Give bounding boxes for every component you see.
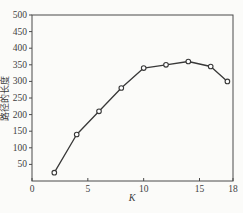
plot-frame: [32, 15, 233, 181]
y-tick-label: 500: [13, 10, 28, 20]
y-tick-label: 50: [18, 159, 28, 169]
data-point-marker: [74, 132, 79, 137]
data-point-marker: [97, 109, 102, 114]
y-tick-label: 350: [13, 60, 28, 70]
x-tick-label: 15: [195, 184, 205, 194]
plot-area: 5010015020025030035040045050005101518: [13, 10, 238, 194]
chart-figure: 5010015020025030035040045050005101518 K …: [0, 0, 243, 213]
x-tick-label: 0: [30, 184, 35, 194]
y-axis-label: 路径的长度: [0, 76, 10, 121]
data-point-marker: [52, 170, 57, 175]
y-tick-label: 150: [13, 126, 28, 136]
x-tick-label: 18: [228, 184, 238, 194]
y-tick-label: 200: [13, 110, 28, 120]
data-point-marker: [164, 63, 169, 68]
x-tick-label: 10: [139, 184, 149, 194]
data-point-marker: [225, 79, 230, 84]
y-tick-label: 300: [13, 76, 28, 86]
y-tick-label: 250: [13, 93, 28, 103]
path-length-line-chart: 5010015020025030035040045050005101518 K …: [0, 0, 243, 213]
data-point-marker: [141, 66, 146, 71]
data-point-marker: [208, 64, 213, 69]
data-point-marker: [186, 59, 191, 64]
x-axis-label: K: [128, 192, 137, 203]
data-line: [54, 62, 227, 173]
x-tick-label: 5: [85, 184, 90, 194]
y-tick-label: 400: [13, 43, 28, 53]
y-tick-label: 100: [13, 143, 28, 153]
data-point-marker: [119, 86, 124, 91]
y-tick-label: 450: [13, 27, 28, 37]
